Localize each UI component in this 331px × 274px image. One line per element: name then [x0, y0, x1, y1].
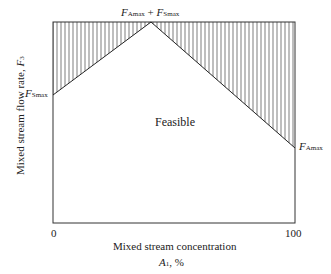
left-intercept-label: FSmax	[25, 88, 48, 99]
ylabel-sub: 3	[18, 56, 26, 60]
xvar: A	[159, 256, 166, 268]
left-f: F	[25, 87, 32, 99]
right-intercept-label: FAmax	[299, 141, 323, 152]
right-f: F	[299, 140, 306, 152]
x-tick-100: 100	[285, 228, 302, 239]
x-axis-unit-label: A1, %	[159, 257, 184, 268]
peak-f: F	[121, 6, 128, 18]
feasible-label: Feasible	[155, 116, 195, 128]
peak-sub-s: Smax	[163, 10, 179, 18]
plot-canvas	[0, 0, 331, 274]
peak-sub-a: Amax	[128, 10, 145, 18]
ylabel-var: F	[14, 60, 26, 67]
left-sub: Smax	[32, 91, 48, 99]
peak-plus: +	[145, 6, 157, 18]
peak-label: FAmax + FSmax	[121, 7, 179, 18]
x-axis-label: Mixed stream concentration	[113, 241, 236, 252]
ylabel-text: Mixed stream flow rate,	[14, 67, 26, 175]
x-tick-0: 0	[51, 228, 57, 239]
right-sub: Amax	[306, 144, 323, 152]
xunit: , %	[169, 256, 184, 268]
y-axis-label: Mixed stream flow rate, F3	[15, 56, 26, 175]
